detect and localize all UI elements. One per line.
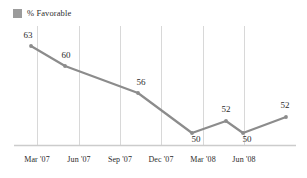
data-point-label: 52: [281, 101, 290, 110]
data-point-label: 60: [62, 51, 71, 60]
x-tick-label: Sep '07: [108, 155, 132, 164]
data-point-marker: [284, 115, 288, 119]
x-tick-label: Dec '07: [148, 155, 173, 164]
x-tick-label: Jun '08: [232, 155, 255, 164]
x-tick-label: Mar '07: [24, 155, 49, 164]
x-tick-label: Mar '08: [190, 155, 215, 164]
data-point-label: 50: [192, 135, 201, 144]
data-point-label: 63: [24, 31, 33, 40]
plot-area: [0, 0, 307, 178]
data-point-label: 56: [137, 78, 146, 87]
data-point-label: 52: [222, 105, 231, 114]
data-point-label: 50: [243, 135, 252, 144]
x-tick-label: Jun '07: [67, 155, 90, 164]
chart-container: % Favorable 63605650525052 Mar '07Jun '0…: [0, 0, 307, 178]
data-point-marker: [224, 119, 228, 123]
data-point-marker: [136, 91, 140, 95]
data-point-marker: [63, 64, 67, 68]
data-point-marker: [29, 44, 33, 48]
